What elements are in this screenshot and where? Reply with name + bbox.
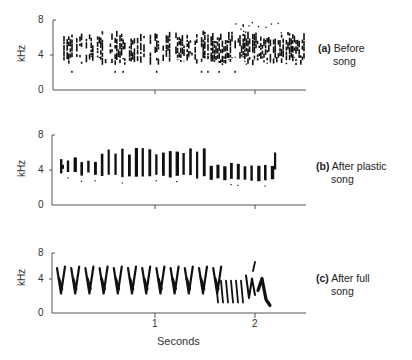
spectrogram-figure — [0, 0, 412, 360]
spectrogram-a — [63, 22, 305, 73]
spectrogram-c — [57, 262, 270, 306]
spectrogram-b — [60, 148, 276, 187]
